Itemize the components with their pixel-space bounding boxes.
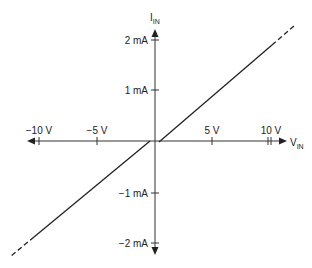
x-tick-label-10: 10 V: [261, 125, 282, 136]
x-tick-label-neg5: −5 V: [87, 125, 108, 136]
iv-characteristic-diagram: IIN VIN −10 V −5 V 5 V 10 V 2 mA 1 mA −1…: [0, 0, 312, 268]
y-axis-label: IIN: [150, 12, 160, 25]
x-tick-label-neg10: −10 V: [26, 125, 53, 136]
y-axis-down-arrow-icon: [152, 247, 159, 255]
y-tick-label-neg2ma: −2 mA: [119, 238, 149, 249]
curve-positive-dashed-extension: [272, 26, 294, 45]
curve-negative-dashed-extension: [11, 237, 34, 256]
y-tick-label-neg1ma: −1 mA: [119, 188, 149, 199]
x-axis-left-arrow-icon: [27, 138, 35, 145]
x-tick-label-5: 5 V: [204, 125, 219, 136]
x-axis-right-arrow-icon: [279, 138, 287, 145]
x-axis-label: VIN: [290, 137, 304, 150]
y-tick-label-2ma: 2 mA: [125, 35, 149, 46]
y-tick-label-1ma: 1 mA: [125, 85, 149, 96]
y-axis-up-arrow-icon: [152, 29, 159, 37]
